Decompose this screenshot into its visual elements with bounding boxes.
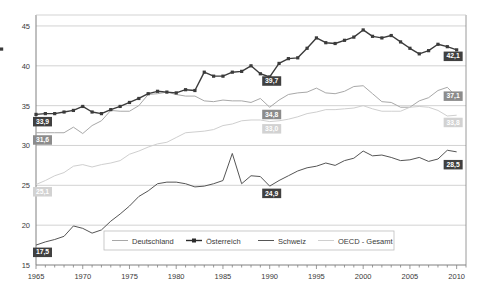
data-label: 33,9: [33, 117, 52, 127]
series-marker: [408, 47, 411, 50]
series-marker: [296, 56, 299, 59]
x-tick-label: 1985: [215, 272, 232, 281]
series-marker: [184, 88, 187, 91]
series-marker: [109, 108, 112, 111]
axes: [36, 15, 466, 265]
series-marker: [315, 36, 318, 39]
series-marker: [100, 112, 103, 115]
data-label-text: 33,8: [447, 119, 460, 127]
series-marker: [193, 89, 196, 92]
series-marker: [446, 45, 449, 48]
y-tick-label: 40: [22, 62, 30, 71]
line-chart: 1520253035404519651970197519801985199019…: [0, 0, 478, 292]
y-tick-label: 30: [22, 141, 30, 150]
series-marker: [44, 112, 47, 115]
series-marker: [371, 35, 374, 38]
series-marker: [249, 64, 252, 67]
series-marker: [175, 91, 178, 94]
data-label-text: 17,5: [36, 248, 49, 256]
data-label: 17,5: [33, 248, 52, 257]
x-tick-label: 1975: [121, 272, 138, 281]
data-label: 39,7: [262, 76, 281, 86]
series-group: [0, 28, 458, 245]
data-label: 25,1: [33, 187, 52, 197]
series-marker: [156, 90, 159, 93]
gridlines: [36, 26, 466, 225]
series-marker: [72, 109, 75, 112]
series-marker: [231, 71, 234, 74]
data-label-text: 33,0: [265, 125, 278, 133]
series-marker: [259, 72, 262, 75]
series-marker: [390, 34, 393, 37]
data-label-text: 34,8: [265, 111, 278, 119]
data-label: 28,5: [444, 160, 463, 170]
data-label: 34,8: [262, 110, 281, 120]
data-label-text: 31,6: [36, 136, 49, 144]
data-label-text: 37,1: [447, 92, 460, 100]
x-tick-label: 1990: [261, 272, 278, 281]
chart-container: 1520253035404519651970197519801985199019…: [0, 0, 478, 292]
legend-label: Schweiz: [278, 237, 306, 246]
series-marker: [427, 49, 430, 52]
data-label-text: 24,9: [265, 190, 278, 198]
data-label: 31,6: [33, 135, 52, 145]
series-marker: [305, 47, 308, 50]
series-marker: [128, 101, 131, 104]
series-marker: [436, 43, 439, 46]
data-label: 33,0: [262, 124, 281, 134]
series-marker: [352, 36, 355, 39]
series-marker: [455, 48, 458, 51]
data-label-text: 33,9: [36, 118, 49, 126]
data-label-text: 25,1: [36, 188, 49, 196]
series-marker: [334, 42, 337, 45]
data-label: 37,1: [444, 91, 463, 101]
series-marker: [380, 36, 383, 39]
data-label: 33,8: [444, 118, 463, 128]
legend: DeutschlandÖsterreichSchweizOECD - Gesam…: [104, 231, 394, 250]
series-marker: [212, 75, 215, 78]
series-marker: [324, 41, 327, 44]
x-tick-label: 1980: [168, 272, 185, 281]
data-label-text: 42,1: [447, 52, 460, 60]
data-label: 24,9: [262, 189, 281, 199]
series-marker: [287, 57, 290, 60]
data-labels: 33,931,625,117,539,734,833,024,942,137,1…: [33, 52, 463, 258]
y-tick-label: 20: [22, 221, 30, 230]
x-tick-labels: 1965197019751980198519901995200020052010: [28, 265, 466, 281]
legend-label: Österreich: [206, 237, 241, 246]
series-marker: [81, 105, 84, 108]
series-marker: [418, 52, 421, 55]
legend-marker: [192, 239, 196, 243]
series-marker: [362, 28, 365, 31]
legend-label: Deutschland: [132, 237, 174, 246]
series-marker: [34, 113, 37, 116]
x-tick-label: 2005: [402, 272, 419, 281]
series-marker: [137, 97, 140, 100]
x-tick-label: 1970: [74, 272, 91, 281]
y-tick-labels: 15202530354045: [22, 22, 30, 270]
series-marker: [203, 71, 206, 74]
x-tick-label: 1995: [308, 272, 325, 281]
series-marker: [277, 62, 280, 65]
series-marker: [90, 110, 93, 113]
series-marker: [343, 39, 346, 42]
y-tick-label: 35: [22, 102, 30, 111]
y-tick-label: 25: [22, 181, 30, 190]
series-marker: [240, 70, 243, 73]
data-label-text: 28,5: [447, 161, 460, 169]
x-tick-label: 1965: [28, 272, 45, 281]
legend-label: OECD - Gesamt: [338, 237, 394, 246]
series-line-deutschland: [36, 86, 457, 134]
y-tick-label: 15: [22, 261, 30, 270]
data-label-text: 39,7: [265, 77, 278, 85]
series-marker: [399, 40, 402, 43]
series-marker: [221, 75, 224, 78]
series-marker: [62, 110, 65, 113]
x-tick-label: 2010: [448, 272, 465, 281]
data-label: 42,1: [444, 52, 463, 62]
y-tick-label: 45: [22, 22, 30, 31]
series-marker: [0, 47, 3, 50]
series-marker: [53, 112, 56, 115]
x-tick-label: 2000: [355, 272, 372, 281]
series-marker: [165, 91, 168, 94]
